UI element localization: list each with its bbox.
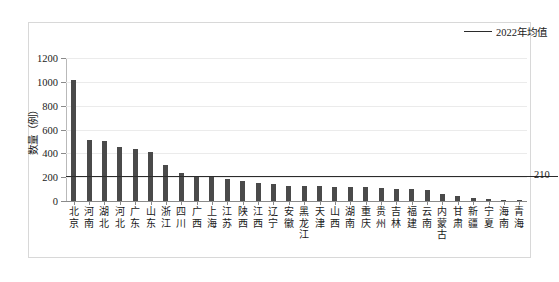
x-category-label: 江西 (251, 206, 265, 229)
bar[interactable] (240, 181, 245, 201)
bar[interactable] (117, 147, 122, 201)
x-tick-mark (458, 201, 459, 205)
x-category-label: 重庆 (359, 206, 373, 229)
x-tick-mark (273, 201, 274, 205)
x-category-label: 山西 (328, 206, 342, 229)
x-tick-mark (489, 201, 490, 205)
x-category-label: 黑龙江 (297, 206, 311, 241)
bar[interactable] (209, 177, 214, 201)
x-tick-mark (473, 201, 474, 205)
x-tick-mark (104, 201, 105, 205)
x-category-label: 上海 (205, 206, 219, 229)
x-tick-mark (335, 201, 336, 205)
x-tick-mark (151, 201, 152, 205)
x-tick-mark (89, 201, 90, 205)
x-tick-mark (304, 201, 305, 205)
x-category-label: 甘肃 (451, 206, 465, 229)
x-tick-mark (320, 201, 321, 205)
y-tick-label: 200 (42, 172, 58, 183)
x-tick-mark (135, 201, 136, 205)
x-tick-mark (350, 201, 351, 205)
x-tick-mark (258, 201, 259, 205)
bar-series (66, 58, 527, 201)
x-category-label: 广东 (128, 206, 142, 229)
bar[interactable] (179, 173, 184, 201)
x-category-label: 青海 (512, 206, 526, 229)
x-category-label: 吉林 (389, 206, 403, 229)
plot-area: 020040060080010001200 (66, 58, 527, 201)
bar[interactable] (394, 189, 399, 202)
x-category-label: 四川 (174, 206, 188, 229)
x-category-label: 安徽 (282, 206, 296, 229)
bar[interactable] (332, 187, 337, 201)
legend-label-average: 2022年均值 (496, 24, 547, 39)
x-category-label: 福建 (405, 206, 419, 229)
bar[interactable] (225, 179, 230, 201)
y-tick-label: 400 (42, 148, 58, 159)
bar[interactable] (256, 183, 261, 201)
x-tick-mark (243, 201, 244, 205)
x-category-label: 宁夏 (482, 206, 496, 229)
y-tick-label: 1200 (37, 53, 58, 64)
x-category-label: 北京 (67, 206, 81, 229)
x-tick-mark (396, 201, 397, 205)
bar[interactable] (163, 165, 168, 201)
bar[interactable] (271, 184, 276, 201)
x-category-label: 陕西 (236, 206, 250, 229)
bar[interactable] (286, 186, 291, 201)
average-reference-line (66, 176, 558, 177)
x-tick-mark (412, 201, 413, 205)
x-tick-mark (289, 201, 290, 205)
bar[interactable] (425, 190, 430, 201)
x-category-label: 天津 (313, 206, 327, 229)
bar[interactable] (317, 186, 322, 201)
x-tick-mark (197, 201, 198, 205)
bar[interactable] (71, 80, 76, 201)
bar[interactable] (363, 187, 368, 201)
y-tick-label: 800 (42, 100, 58, 111)
y-tick-label: 600 (42, 124, 58, 135)
x-tick-mark (74, 201, 75, 205)
bar[interactable] (87, 140, 92, 201)
y-tick-mark (61, 201, 66, 202)
average-value-label: 210 (534, 169, 550, 180)
x-category-label: 贵州 (374, 206, 388, 229)
x-tick-mark (366, 201, 367, 205)
x-tick-mark (166, 201, 167, 205)
x-tick-mark (504, 201, 505, 205)
bar[interactable] (102, 141, 107, 201)
x-category-label: 内蒙古 (435, 206, 449, 241)
x-tick-mark (427, 201, 428, 205)
y-tick-label: 1000 (37, 76, 58, 87)
chart-legend: 2022年均值 (464, 24, 547, 39)
y-tick-label: 0 (53, 196, 58, 207)
x-category-label: 山东 (144, 206, 158, 229)
x-category-label: 河南 (82, 206, 96, 229)
x-category-label: 广西 (190, 206, 204, 229)
x-category-label: 新疆 (466, 206, 480, 229)
x-category-label: 浙江 (159, 206, 173, 229)
x-tick-mark (442, 201, 443, 205)
x-category-label: 湖北 (97, 206, 111, 229)
bar[interactable] (302, 186, 307, 201)
x-tick-mark (120, 201, 121, 205)
x-tick-mark (212, 201, 213, 205)
bar[interactable] (348, 187, 353, 201)
x-category-label: 湖南 (343, 206, 357, 229)
x-category-label: 江苏 (220, 206, 234, 229)
x-category-label: 云南 (420, 206, 434, 229)
y-axis-label: 数量（例） (25, 105, 40, 155)
bar[interactable] (379, 188, 384, 201)
x-category-label: 海南 (497, 206, 511, 229)
x-tick-mark (181, 201, 182, 205)
x-tick-mark (519, 201, 520, 205)
bar[interactable] (194, 177, 199, 201)
x-axis-category-labels: 北京河南湖北河北广东山东浙江四川广西上海江苏陕西江西辽宁安徽黑龙江天津山西湖南重… (66, 206, 527, 276)
chart-container: 2022年均值 数量（例） 020040060080010001200 210 … (0, 0, 559, 282)
x-tick-mark (227, 201, 228, 205)
bar[interactable] (409, 189, 414, 201)
x-tick-mark (381, 201, 382, 205)
x-category-label: 河北 (113, 206, 127, 229)
x-category-label: 辽宁 (266, 206, 280, 229)
legend-line-swatch (464, 31, 492, 32)
